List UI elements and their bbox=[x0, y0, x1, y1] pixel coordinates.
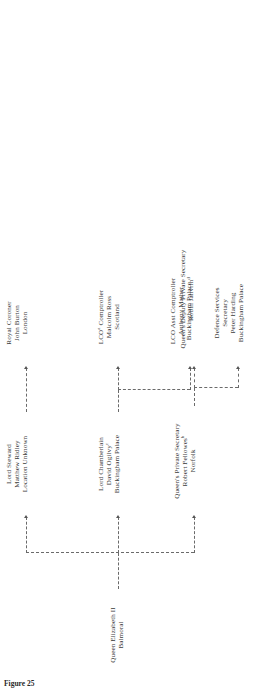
edge-root-to-private-secretary bbox=[194, 517, 195, 553]
node-person: Robin Janvrind bbox=[188, 235, 196, 363]
node-location: Buckingham Palace bbox=[114, 416, 122, 512]
node-royal-coroner: Royal Coroner John Burton London bbox=[6, 283, 30, 363]
arrowhead-private-secretary bbox=[192, 515, 196, 518]
footnote-marker-d: d bbox=[186, 277, 191, 280]
node-queen-elizabeth-ii: Queen Elizabeth II Balmoral bbox=[110, 592, 126, 678]
edge-lord-chamberlain-bus bbox=[118, 389, 190, 390]
node-queens-deputy-private-secretary: Queen's Deputy Private Secretary Robin J… bbox=[180, 235, 196, 363]
footnote-marker-c: c bbox=[104, 443, 109, 445]
footnote-marker-a: a bbox=[96, 327, 101, 329]
edge-private-secretary-trunk bbox=[194, 388, 195, 406]
edge-to-defence-services-secretary bbox=[238, 368, 239, 388]
edge-to-lco-comptroller bbox=[118, 368, 119, 390]
edge-root-to-lord-steward bbox=[26, 517, 27, 553]
edge-to-deputy-private-secretary bbox=[194, 368, 195, 388]
arrowhead-defence-services-secretary bbox=[236, 366, 240, 369]
node-lord-steward: Lord Steward Matthew Ridley Location Unk… bbox=[6, 416, 30, 512]
edge-lord-chamberlain-trunk bbox=[118, 390, 119, 412]
edge-root-to-lord-chamberlain bbox=[118, 517, 119, 553]
edge-root-bus bbox=[26, 552, 194, 553]
node-defence-services-secretary: Defence Services Secretary Peter Harding… bbox=[214, 263, 246, 363]
node-location: Norfolk bbox=[190, 410, 198, 512]
node-lord-chamberlain: Lord Chamberlain David Ogilvyc Buckingha… bbox=[98, 416, 122, 512]
edge-root-trunk bbox=[118, 553, 119, 589]
footnote-marker-b: b bbox=[180, 436, 185, 439]
edge-to-lco-asst-comptroller bbox=[190, 368, 191, 390]
arrowhead-lord-chamberlain bbox=[116, 515, 120, 518]
node-location: Location Unknown bbox=[22, 416, 30, 512]
node-location: London bbox=[22, 283, 30, 363]
arrowhead-royal-coroner bbox=[24, 366, 28, 369]
node-lco-comptroller: LCOa Comptroller Malcolm Ross Scotland bbox=[98, 271, 122, 363]
arrowhead-lco-comptroller bbox=[116, 366, 120, 369]
edge-private-secretary-bus bbox=[194, 387, 238, 388]
arrowhead-deputy-private-secretary bbox=[192, 366, 196, 369]
node-location: Balmoral bbox=[118, 592, 126, 678]
arrowhead-lord-steward bbox=[24, 515, 28, 518]
node-location: Buckingham Palace bbox=[238, 263, 246, 363]
node-queens-private-secretary: Queen's Private Secretary Robert Fellowe… bbox=[174, 410, 198, 512]
figure-caption: Figure 25 bbox=[4, 679, 34, 688]
node-location: Scotland bbox=[114, 271, 122, 363]
edge-lord-steward-to-royal-coroner bbox=[26, 368, 27, 412]
